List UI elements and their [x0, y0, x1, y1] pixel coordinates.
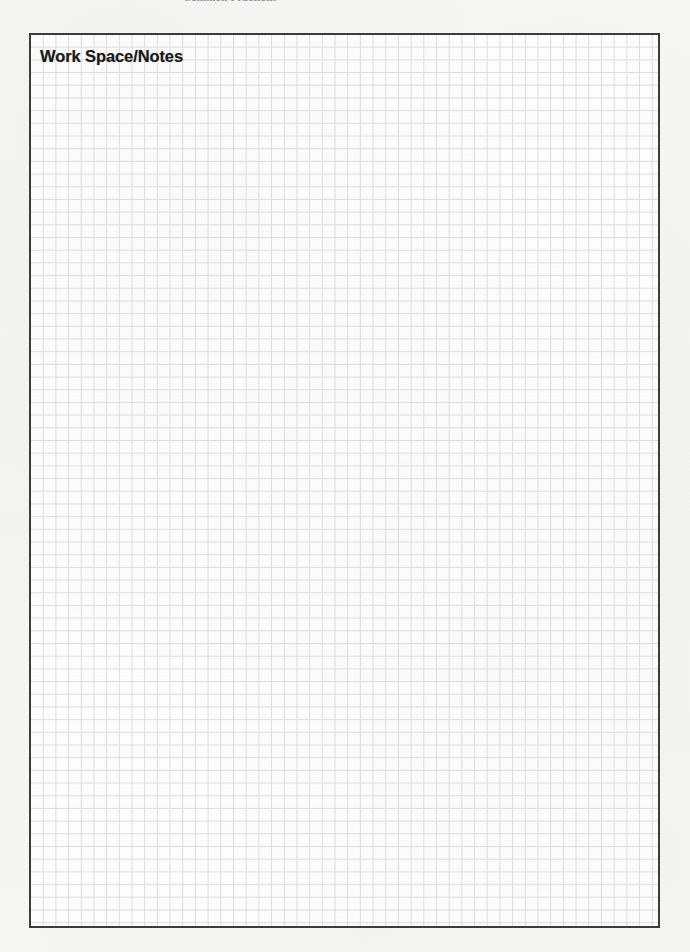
worksheet-page: Section 2 Common Fractions Work Space/No… — [0, 0, 690, 952]
running-header-title: Common Fractions — [183, 0, 277, 3]
running-header: Section 2 Common Fractions — [0, 0, 690, 5]
work-space-frame: Work Space/Notes — [29, 33, 660, 928]
work-space-title: Work Space/Notes — [40, 47, 183, 66]
running-header-section: Section 2 — [28, 0, 70, 2]
work-space-writing-area[interactable] — [33, 69, 656, 924]
